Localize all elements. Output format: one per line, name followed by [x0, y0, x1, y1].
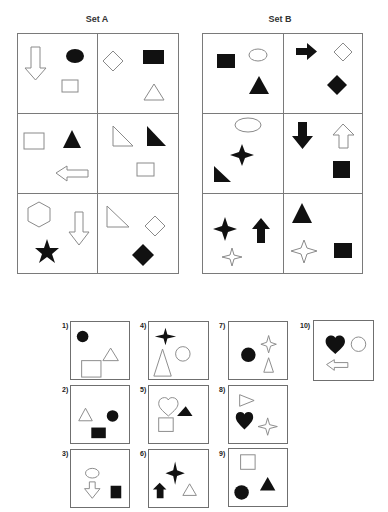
- left-arrow-outline-shape: [327, 360, 348, 371]
- down-arrow-filled-shape: [292, 122, 313, 149]
- ellipse-outline-shape: [235, 118, 261, 132]
- hexagon-outline-shape: [28, 202, 50, 227]
- set-b-cell-4: [284, 114, 363, 193]
- set-a-cell-1: [18, 34, 97, 113]
- diamond-filled-shape: [327, 75, 347, 95]
- triangle-filled-shape: [63, 130, 81, 148]
- four-point-star-outline-shape: [291, 240, 317, 263]
- set-a-cell-6: [98, 194, 179, 274]
- circle-outline-shape: [351, 337, 366, 352]
- ellipse-filled-shape: [66, 49, 84, 63]
- down-arrow-outline-shape: [85, 482, 100, 498]
- right-triangle-outline-shape: [113, 126, 133, 146]
- up-arrow-filled-shape: [153, 483, 167, 498]
- circle-outline-shape: [176, 347, 190, 361]
- down-arrow-outline-shape: [25, 47, 46, 80]
- option-4-label: 4): [140, 322, 146, 329]
- four-point-star-outline-shape: [261, 336, 276, 353]
- heart-outline-shape: [159, 398, 178, 416]
- circle-filled-shape: [107, 410, 119, 422]
- four-point-star-outline-shape: [258, 418, 277, 435]
- option-1-label: 1): [62, 322, 68, 329]
- star-filled-shape: [35, 239, 59, 263]
- option-6[interactable]: [148, 449, 209, 508]
- option-9-label: 9): [219, 450, 225, 457]
- set-b-cell-5: [203, 194, 283, 274]
- triangle-outline-shape: [154, 349, 171, 376]
- up-arrow-filled-shape: [252, 218, 270, 243]
- four-point-star-filled-shape: [165, 462, 184, 485]
- set-a-cell-5: [18, 194, 97, 274]
- set-a-grid: [17, 33, 179, 274]
- circle-filled-shape: [241, 348, 255, 362]
- heart-filled-shape: [236, 412, 253, 429]
- triangle-filled-shape: [177, 406, 192, 416]
- four-point-star-filled-shape: [155, 328, 176, 345]
- up-arrow-outline-shape: [333, 124, 354, 148]
- set-a-title: Set A: [67, 14, 127, 24]
- set-b-title: Set B: [250, 14, 310, 24]
- triangle-outline-shape: [183, 484, 197, 496]
- triangle-filled-shape: [292, 203, 312, 223]
- option-1[interactable]: [70, 321, 130, 380]
- square-outline-shape: [241, 455, 255, 469]
- triangle-outline-shape: [264, 358, 274, 372]
- triangle-outline-shape: [103, 348, 118, 361]
- ellipse-outline-shape: [86, 468, 100, 478]
- option-10[interactable]: [313, 320, 374, 381]
- set-b-cell-1: [203, 34, 283, 113]
- option-2-label: 2): [62, 386, 68, 393]
- option-6-label: 6): [140, 450, 146, 457]
- option-2[interactable]: [70, 385, 130, 444]
- option-3-label: 3): [62, 450, 68, 457]
- option-7-label: 7): [219, 322, 225, 329]
- option-7[interactable]: [228, 321, 288, 380]
- four-point-star-filled-shape: [230, 144, 254, 166]
- rectangle-outline-shape: [24, 133, 44, 149]
- set-a-cell-2: [98, 34, 179, 113]
- four-point-star-outline-shape: [222, 248, 242, 266]
- diamond-outline-shape: [103, 51, 123, 71]
- right-triangle-filled-shape: [214, 166, 231, 182]
- option-10-label: 10): [300, 322, 310, 329]
- down-arrow-outline-shape: [69, 212, 89, 245]
- option-5[interactable]: [148, 385, 209, 444]
- set-b-cell-3: [203, 114, 283, 193]
- rectangle-filled-shape: [217, 54, 235, 68]
- set-a-cell-3: [18, 114, 97, 193]
- right-pointing-triangle-outline-shape: [240, 395, 254, 407]
- left-arrow-outline-shape: [56, 166, 88, 181]
- set-b-grid: [202, 33, 363, 274]
- right-triangle-filled-shape: [147, 126, 166, 146]
- option-9[interactable]: [228, 448, 288, 507]
- square-outline-shape: [159, 418, 173, 432]
- set-a-cell-4: [98, 114, 179, 193]
- right-arrow-filled-shape: [296, 43, 317, 60]
- option-8-label: 8): [219, 386, 225, 393]
- circle-filled-shape: [234, 485, 248, 499]
- option-4[interactable]: [148, 321, 209, 380]
- rectangle-filled-shape: [111, 486, 122, 499]
- option-8[interactable]: [228, 385, 288, 444]
- rectangle-filled-shape: [91, 428, 105, 439]
- diamond-outline-shape: [145, 216, 165, 236]
- square-filled-shape: [333, 161, 350, 178]
- option-5-label: 5): [140, 386, 146, 393]
- rectangle-outline-shape: [62, 80, 78, 92]
- square-filled-shape: [334, 243, 352, 258]
- set-b-cell-2: [284, 34, 363, 113]
- option-3[interactable]: [70, 449, 130, 508]
- triangle-filled-shape: [249, 76, 269, 94]
- diamond-filled-shape: [132, 244, 154, 266]
- triangle-outline-shape: [79, 408, 93, 421]
- triangle-filled-shape: [260, 477, 275, 491]
- four-point-star-filled-shape: [213, 217, 237, 241]
- rectangle-outline-shape: [82, 361, 101, 377]
- set-b-cell-6: [284, 194, 363, 274]
- rectangle-filled-shape: [143, 50, 164, 64]
- rectangle-outline-shape: [137, 163, 154, 176]
- right-triangle-outline-shape: [107, 206, 129, 227]
- ellipse-outline-shape: [249, 49, 267, 61]
- heart-filled-shape: [326, 336, 345, 354]
- triangle-outline-shape: [144, 84, 164, 100]
